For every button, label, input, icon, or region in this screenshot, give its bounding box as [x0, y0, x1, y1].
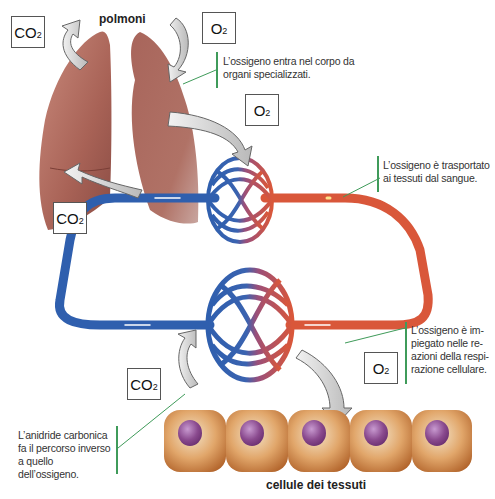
co2-text: CO [130, 376, 153, 393]
callout-bar-co2-reverse [116, 426, 118, 474]
co2-text: CO [14, 24, 37, 41]
co2-box-lungs: CO2 [11, 16, 45, 48]
subscript: 2 [153, 382, 158, 392]
o2-text: O [211, 20, 223, 37]
callout-bar-oxygen-transported [377, 156, 379, 192]
note-co2-reverse: L’anidride carbonica fa il percorso inve… [18, 429, 114, 481]
gas-exchange-diagram: polmoni cellule dei tessuti CO2 O2 O2 CO… [0, 0, 495, 499]
note-line: azioni della respi- [411, 350, 495, 363]
cells-label: cellule dei tessuti [266, 478, 366, 492]
co2-from-cells-arrow [178, 330, 198, 388]
note-line: a quello dell’ossigeno. [18, 455, 114, 481]
subscript: 2 [222, 26, 227, 36]
note-line: piegato nelle re- [411, 337, 495, 350]
subscript: 2 [265, 108, 270, 118]
subscript: 2 [79, 216, 84, 226]
note-line: L’ossigeno è im- [411, 324, 495, 337]
co2-text: CO [56, 210, 79, 227]
tissue-cells [164, 410, 472, 472]
o2-text: O [373, 360, 385, 377]
note-line: razione cellulare. [411, 363, 495, 376]
subscript: 2 [37, 30, 42, 40]
note-oxygen-transported: L’ossigeno è trasportato ai tessuti dal … [383, 159, 495, 185]
tissue-capillary-bed [208, 270, 292, 380]
co2-box-blood: CO2 [53, 202, 87, 234]
subscript: 2 [384, 366, 389, 376]
note-line: fa il percorso inverso [18, 442, 114, 455]
note-line: L’ossigeno entra nel corpo da [223, 55, 363, 68]
note-line: L’anidride carbonica [18, 429, 114, 442]
o2-box-blood: O2 [245, 94, 279, 126]
o2-inhale-arrow [168, 18, 188, 82]
note-line: L’ossigeno è trasportato [383, 159, 495, 172]
callout-bar-oxygen-enters [216, 52, 218, 88]
o2-box-lungs: O2 [202, 12, 236, 44]
note-oxygen-used: L’ossigeno è im- piegato nelle re- azion… [411, 324, 495, 376]
note-line: organi specializzati. [223, 68, 363, 81]
co2-box-cells: CO2 [127, 368, 161, 400]
blood-circuit [59, 198, 428, 325]
note-oxygen-enters: L’ossigeno entra nel corpo da organi spe… [223, 55, 363, 81]
o2-text: O [254, 102, 266, 119]
callout-bar-oxygen-used [405, 322, 407, 384]
lungs-label: polmoni [99, 12, 146, 26]
o2-box-cells: O2 [364, 352, 398, 384]
note-line: ai tessuti dal sangue. [383, 172, 495, 185]
